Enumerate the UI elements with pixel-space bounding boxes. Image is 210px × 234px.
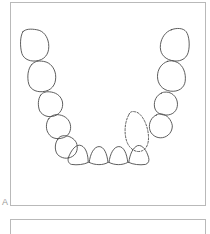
tooth-8-right-central-incisor[interactable] (109, 147, 128, 165)
tooth-2-left-molar[interactable] (28, 61, 56, 92)
tooth-11-right-premolar[interactable] (149, 114, 172, 138)
figure-root: A (0, 0, 210, 234)
tooth-3-left-premolar[interactable] (38, 92, 62, 117)
panel-a (10, 2, 206, 206)
tooth-13-right-molar[interactable] (157, 61, 185, 92)
teeth-group (21, 28, 190, 164)
panel-label-a: A (2, 196, 12, 208)
panel-b (10, 219, 206, 234)
tooth-6-left-lateral-incisor[interactable] (68, 145, 88, 165)
tooth-14-right-molar[interactable] (160, 28, 189, 61)
dental-arch-diagram (11, 3, 205, 205)
tooth-7-left-central-incisor[interactable] (89, 147, 108, 165)
tooth-1-left-molar[interactable] (21, 29, 49, 61)
tooth-4-left-premolar[interactable] (46, 115, 70, 139)
tooth-12-right-premolar[interactable] (154, 92, 177, 115)
